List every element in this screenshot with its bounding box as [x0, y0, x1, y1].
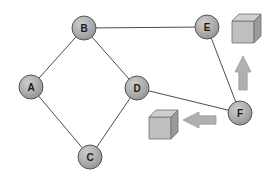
nodes-layer: ABCDEF — [19, 15, 252, 169]
graph-edge-d-f — [137, 88, 240, 113]
package-cube-icon — [232, 14, 261, 43]
graph-node-f[interactable]: F — [228, 101, 252, 125]
graph-node-c[interactable]: C — [78, 145, 102, 169]
graph-svg: ABCDEF — [0, 0, 272, 180]
node-label-a: A — [27, 82, 34, 93]
transfer-arrow-up-icon — [235, 56, 251, 90]
graph-node-a[interactable]: A — [19, 75, 43, 99]
graph-node-b[interactable]: B — [72, 16, 96, 40]
transfer-arrow-left-icon — [183, 112, 216, 128]
node-label-e: E — [204, 22, 211, 33]
graph-node-e[interactable]: E — [195, 15, 219, 39]
graph-node-d[interactable]: D — [125, 76, 149, 100]
node-label-c: C — [86, 152, 93, 163]
package-cube-icon — [149, 110, 178, 139]
node-label-f: F — [237, 108, 243, 119]
node-label-d: D — [133, 83, 140, 94]
node-label-b: B — [80, 23, 87, 34]
graph-edge-b-e — [84, 27, 207, 28]
diagram-canvas: ABCDEF — [0, 0, 272, 180]
graph-edge-a-c — [31, 87, 90, 157]
graph-edge-c-d — [90, 88, 137, 157]
